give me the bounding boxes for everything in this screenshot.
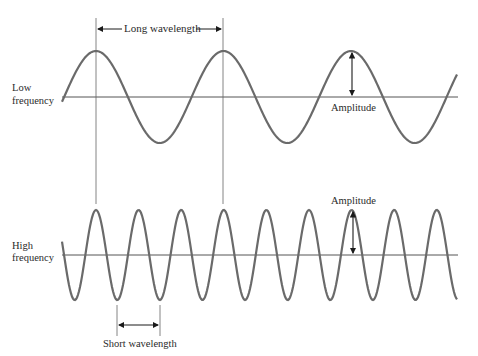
high-frequency-label-line2: frequency	[12, 251, 54, 264]
short-wavelength-label: Short wavelength	[103, 337, 177, 350]
long-wavelength-label: Long wavelength	[124, 22, 201, 35]
low-frequency-label-line2: frequency	[12, 94, 54, 107]
low-frequency-label-line1: Low	[12, 81, 31, 94]
wave-diagram	[0, 0, 478, 356]
high-amplitude-label: Amplitude	[331, 194, 376, 207]
low-amplitude-label: Amplitude	[331, 101, 376, 114]
